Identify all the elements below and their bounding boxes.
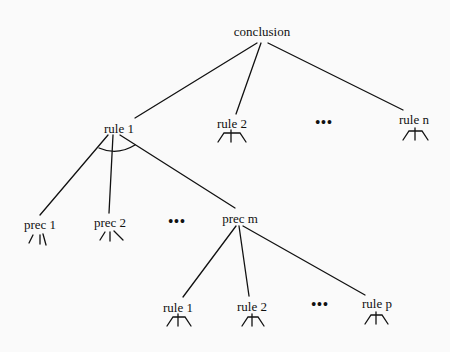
- node-sub-rule-2: rule 2: [237, 300, 267, 313]
- andor-glyph-rule2: [218, 130, 246, 142]
- node-rule-2: rule 2: [217, 117, 247, 130]
- edge-precm-rule1: [183, 226, 236, 297]
- node-prec-1: prec 1: [24, 218, 56, 231]
- andor-glyph-rulen: [403, 128, 428, 140]
- or-glyph-prec1: [29, 234, 46, 245]
- edge-precm-rule2: [239, 226, 249, 296]
- ellipsis-level3: •••: [311, 298, 329, 312]
- node-prec-2: prec 2: [94, 216, 126, 229]
- andor-glyph-sub-rulep: [365, 312, 388, 324]
- node-prec-m: prec m: [222, 212, 258, 225]
- node-rule-1: rule 1: [104, 122, 134, 135]
- ellipsis-level2: •••: [168, 215, 186, 229]
- proof-tree-diagram: conclusion rule 1 rule 2 ••• rule n prec…: [0, 0, 450, 352]
- node-conclusion: conclusion: [234, 25, 290, 38]
- edge-rule1-prec2: [109, 135, 113, 213]
- edge-precm-rulep: [243, 226, 365, 295]
- or-glyph-prec2: [100, 231, 123, 241]
- andor-glyph-sub-rule1: [167, 314, 191, 326]
- node-rule-n: rule n: [399, 113, 429, 126]
- edge-rule1-prec1: [40, 135, 108, 215]
- and-arc-rule1: [99, 145, 135, 151]
- ellipsis-level1: •••: [315, 116, 333, 130]
- edge-rule1-precm: [120, 135, 235, 208]
- node-sub-rule-1: rule 1: [163, 301, 193, 314]
- edge-conclusion-rulen: [268, 43, 403, 110]
- andor-glyph-sub-rule2: [242, 314, 264, 326]
- node-rule-p: rule p: [362, 297, 392, 310]
